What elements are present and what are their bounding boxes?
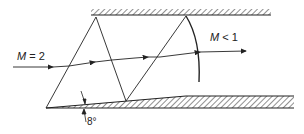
mach-value: = 2 <box>26 50 45 62</box>
shock-waves <box>46 16 199 108</box>
streamline <box>13 51 246 67</box>
normal-shock <box>186 16 199 82</box>
upper-wall <box>91 9 271 15</box>
inlet-mach-label: M = 2 <box>17 50 45 62</box>
incident-oblique-shock <box>46 17 96 108</box>
exit-mach-label: M < 1 <box>210 31 238 43</box>
diagram-canvas <box>0 0 304 134</box>
mach-symbol: M <box>210 31 219 43</box>
reflected-oblique-shock-2 <box>126 16 186 101</box>
shock-diagram: M = 2 M < 1 8° <box>0 0 304 134</box>
mach-symbol: M <box>17 50 26 62</box>
wedge-angle-label: 8° <box>87 116 97 127</box>
mach-value: < 1 <box>219 31 238 43</box>
